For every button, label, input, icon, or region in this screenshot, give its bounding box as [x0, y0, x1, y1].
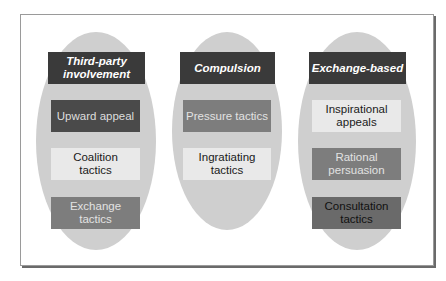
item-consultation-tactics: Consultation tactics: [312, 197, 401, 229]
header-line-1: Compulsion: [194, 62, 260, 75]
header-compulsion: Compulsion: [180, 52, 275, 84]
header-line-1: Exchange-based: [312, 62, 403, 75]
item-inspirational-appeals: Inspirational appeals: [312, 100, 401, 132]
item-label: Pressure tactics: [186, 110, 268, 123]
item-label: Exchange tactics: [67, 200, 124, 226]
item-upward-appeal: Upward appeal: [51, 100, 140, 132]
item-label: Upward appeal: [57, 110, 134, 123]
header-line-1: Third-party: [66, 55, 127, 68]
item-exchange-tactics: Exchange tactics: [51, 197, 140, 229]
item-label: Ingratiating tactics: [199, 151, 256, 177]
header-third-party: Third-party involvement: [48, 52, 145, 84]
item-label: Consultation tactics: [320, 200, 393, 226]
header-exchange-based: Exchange-based: [309, 52, 406, 84]
header-line-2: involvement: [63, 68, 130, 81]
item-label: Coalition tactics: [65, 151, 126, 177]
item-rational-persuasion: Rational persuasion: [312, 148, 401, 180]
item-ingratiating-tactics: Ingratiating tactics: [183, 148, 271, 180]
item-pressure-tactics: Pressure tactics: [183, 100, 271, 132]
item-label: Inspirational appeals: [322, 103, 391, 129]
item-coalition-tactics: Coalition tactics: [51, 148, 140, 180]
item-label: Rational persuasion: [324, 151, 389, 177]
